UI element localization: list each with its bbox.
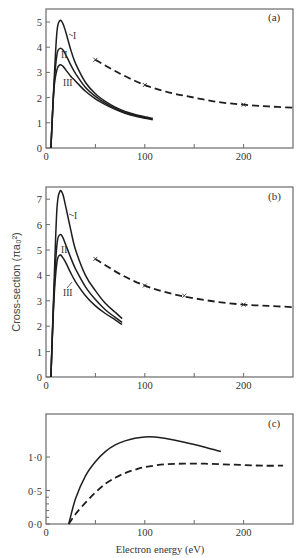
curve-label-I: I (74, 211, 77, 221)
y-tick-label: 0 (37, 372, 42, 383)
curve-label-III: III (63, 288, 73, 298)
y-tick-label: 0·5 (28, 486, 42, 497)
panel-c-label: (c) (268, 417, 281, 430)
y-axis-label: Cross-section (πa₀²) (10, 232, 22, 332)
panel-a-chart: 0100200012345 (a) I II III (37, 9, 293, 162)
y-tick-label: 1 (37, 347, 42, 358)
y-tick-label: 5 (37, 245, 42, 256)
panel-a-series (51, 20, 293, 148)
x-tick-label: 200 (236, 151, 252, 162)
y-tick-label: 5 (37, 17, 42, 28)
x-tick-label: 0 (43, 527, 48, 538)
y-tick-label: 7 (37, 194, 42, 205)
panel-a-ticks: 0100200012345 (37, 17, 252, 162)
x-tick-label: 200 (236, 527, 252, 538)
y-tick-label: 0 (37, 143, 42, 154)
panel-c-chart: 01002000·00·51·0 (c) Electron energy (eV… (28, 414, 293, 556)
panel-a-label: (a) (268, 11, 281, 24)
panel-c-frame (46, 414, 293, 524)
y-tick-label: 2 (37, 93, 42, 104)
panel-c-series (69, 437, 283, 524)
y-tick-label: 1 (37, 118, 42, 129)
y-tick-label: 1·0 (28, 452, 42, 463)
series-dashed-line (69, 464, 283, 524)
x-tick-label: 100 (137, 380, 153, 391)
series-experiment-line (95, 259, 293, 307)
x-tick-label: 0 (43, 380, 48, 391)
x-tick-label: 100 (137, 527, 153, 538)
series-experiment-line (95, 60, 293, 108)
series-iii-line (51, 255, 122, 377)
panel-b-chart: 010020001234567 (b) I II III Cross-secti… (10, 187, 293, 391)
curve-label-II: II (61, 245, 67, 255)
y-tick-label: 4 (37, 42, 43, 53)
curve-label-II: II (61, 50, 67, 60)
figure-canvas: 0100200012345 (a) I II III 0100200012345… (0, 0, 305, 558)
series-i-line (51, 191, 122, 377)
curve-label-III: III (63, 78, 73, 88)
y-tick-label: 3 (37, 67, 42, 78)
panel-b-label: (b) (268, 190, 281, 203)
series-solid-line (69, 437, 221, 524)
y-tick-label: 4 (37, 270, 43, 281)
y-tick-label: 2 (37, 321, 42, 332)
x-axis-label: Electron energy (eV) (116, 544, 205, 556)
x-tick-label: 0 (43, 151, 48, 162)
y-tick-label: 6 (37, 220, 42, 231)
y-tick-label: 0·0 (28, 519, 42, 530)
y-tick-label: 3 (37, 296, 42, 307)
panel-b-series (51, 191, 293, 377)
x-tick-label: 200 (236, 380, 252, 391)
x-tick-label: 100 (137, 151, 153, 162)
curve-label-I: I (73, 31, 76, 41)
